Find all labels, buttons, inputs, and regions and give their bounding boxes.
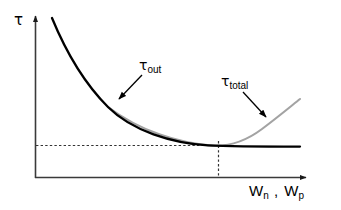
tau-total-curve: [108, 99, 300, 146]
tau-total-subscript: total: [229, 80, 248, 91]
tau-out-subscript: out: [147, 64, 161, 75]
plot-canvas: [0, 0, 341, 210]
x-axis-label-sub-n: n: [263, 190, 269, 201]
x-axis-label-base-p: W: [284, 182, 298, 199]
tau-out-annotation-arrow: [119, 75, 142, 99]
x-axis-label-separator: ,: [269, 182, 285, 199]
y-axis-label-text: τ: [14, 11, 23, 29]
tau-total-annotation-arrow: [243, 92, 266, 117]
delay-vs-transistor-width-figure: τ Wn , Wp τout τtotal: [0, 0, 341, 210]
x-axis-label-base-n: W: [249, 182, 263, 199]
y-axis-label: τ: [14, 12, 23, 28]
x-axis-label: Wn , Wp: [249, 183, 304, 198]
x-axis-label-sub-p: p: [298, 190, 304, 201]
tau-out-label: τout: [139, 58, 161, 72]
tau-total-label: τtotal: [221, 74, 248, 88]
